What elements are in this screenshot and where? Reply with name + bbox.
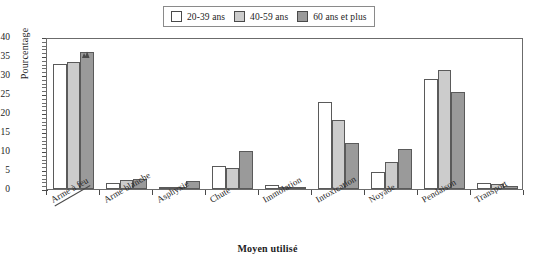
bar [318,102,332,189]
bar [398,149,412,189]
y-axis-tick-minor [42,42,46,43]
x-axis-tick [311,190,312,195]
legend-swatch-icon [234,11,245,22]
y-axis-tick-minor [42,87,46,88]
bar [239,151,253,189]
y-axis-tick-minor [42,137,46,138]
legend-item-label: 40-59 ans [250,12,288,22]
y-axis-tick-label: 0 [0,185,10,195]
x-axis-tick [523,190,524,195]
bar [80,52,94,189]
y-axis-tick-label: 35 [0,52,10,62]
y-axis-tick-minor [42,49,46,50]
x-axis-tick [258,190,259,195]
y-axis-tick-minor [42,148,46,149]
y-axis-tick-minor [42,80,46,81]
y-axis-tick-label: 20 [0,109,10,119]
y-axis-tick-minor [42,53,46,54]
y-axis-tick-major [42,190,48,191]
bar-group [212,39,253,189]
y-axis-tick-minor [42,72,46,73]
y-axis-ticks: 0510152025303540 [12,38,42,190]
y-axis-tick-label: 25 [0,90,10,100]
bar [451,92,465,189]
legend-item: 60 ans et plus [297,11,366,22]
y-axis-tick-minor [42,141,46,142]
y-axis-tick-minor [42,125,46,126]
y-axis-tick-minor [42,186,46,187]
y-axis-tick-minor [42,68,46,69]
x-axis-tick [470,190,471,195]
bar [438,70,452,189]
y-axis-tick-minor [42,156,46,157]
legend-swatch-icon [297,11,308,22]
bar-chart-figure: 20-39 ans40-59 ans60 ans et plus Pourcen… [0,0,535,264]
bar [53,64,67,189]
legend-item: 20-39 ans [171,11,225,22]
y-axis-tick-minor [42,84,46,85]
y-axis-tick-minor [42,167,46,168]
x-axis-tick [205,190,206,195]
y-axis-tick-minor [42,182,46,183]
y-axis-tick-minor [42,99,46,100]
chart-legend: 20-39 ans40-59 ans60 ans et plus [163,6,375,27]
y-axis-tick-minor [42,65,46,66]
bar [67,62,81,189]
y-axis-tick-minor [42,118,46,119]
x-axis-tick [99,190,100,195]
y-axis-tick-minor [42,144,46,145]
bar-group [371,39,412,189]
y-axis-tick-minor [42,175,46,176]
y-axis-tick-label: 10 [0,147,10,157]
y-axis-tick-minor [42,61,46,62]
bar-group [318,39,359,189]
y-axis-tick-minor [42,122,46,123]
bar-group [265,39,306,189]
plot-area [47,39,522,189]
legend-item-label: 20-39 ans [187,12,225,22]
y-axis-tick-minor [42,179,46,180]
bar-group [424,39,465,189]
y-axis-tick-minor [42,106,46,107]
y-axis-tick-minor [42,129,46,130]
x-axis-title: Moyen utilisé [0,243,535,254]
bar-group [159,39,200,189]
y-axis-tick-label: 15 [0,128,10,138]
y-axis-tick-label: 30 [0,71,10,81]
legend-item-label: 60 ans et plus [313,12,366,22]
y-axis-tick-minor [42,91,46,92]
x-axis-tick [417,190,418,195]
y-axis-tick-label: 40 [0,33,10,43]
y-axis-tick-label: 5 [0,166,10,176]
bar-group [53,39,94,189]
bar-group [477,39,518,189]
legend-swatch-icon [171,11,182,22]
y-axis-tick-minor [42,160,46,161]
bar [424,79,438,189]
plot-frame [46,38,523,190]
y-axis-tick-minor [42,163,46,164]
y-axis-tick-minor [42,110,46,111]
bar-group [106,39,147,189]
y-axis-tick-minor [42,46,46,47]
x-axis-tick [46,190,47,195]
y-axis-tick-minor [42,103,46,104]
x-axis-tick [152,190,153,195]
x-axis-tick [364,190,365,195]
legend-item: 40-59 ans [234,11,288,22]
